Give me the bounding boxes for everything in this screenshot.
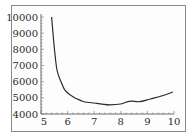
y-tick-label: 9000 <box>13 28 38 39</box>
y-tick-label: 6000 <box>13 76 38 87</box>
y-tick-label: 8000 <box>13 44 38 55</box>
x-tick-label: 5 <box>41 116 47 127</box>
x-tick-label: 8 <box>118 116 124 127</box>
y-tick-label: 7000 <box>13 60 38 71</box>
axes <box>41 14 174 114</box>
line-chart: 400050006000700080009000100005678910 <box>0 0 191 140</box>
x-tick-label: 6 <box>64 116 70 127</box>
x-tick-label: 9 <box>144 116 150 127</box>
tick-labels: 400050006000700080009000100005678910 <box>6 12 180 128</box>
y-tick-label: 5000 <box>13 92 38 103</box>
data-curve <box>52 17 173 105</box>
ticks <box>41 17 174 114</box>
x-tick-label: 10 <box>168 116 181 127</box>
y-tick-label: 4000 <box>13 109 38 120</box>
x-tick-label: 7 <box>91 116 97 127</box>
y-tick-label: 10000 <box>6 12 38 23</box>
